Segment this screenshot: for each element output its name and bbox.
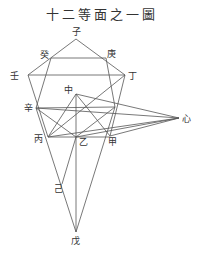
label-jia: 甲 [108, 137, 117, 147]
label-gui: 癸 [40, 49, 49, 60]
label-yi: 乙 [79, 137, 88, 147]
dodecahedron-face-diagram: 子 癸 庚 壬 丁 中 辛 心 丙 乙 甲 己 戊 [0, 0, 203, 258]
point-labels: 子 癸 庚 壬 丁 中 辛 心 丙 乙 甲 己 戊 [10, 27, 191, 246]
label-ji: 己 [54, 184, 63, 194]
label-geng: 庚 [107, 48, 116, 59]
construction-lines [28, 39, 179, 232]
label-xin-heart: 心 [182, 114, 191, 124]
label-bing: 丙 [34, 134, 43, 144]
label-wu: 戊 [71, 235, 80, 246]
label-zhong: 中 [64, 84, 73, 95]
label-ding: 丁 [128, 71, 137, 81]
label-ren: 壬 [10, 71, 19, 81]
label-zi: 子 [72, 27, 81, 37]
label-xin: 辛 [24, 102, 33, 113]
